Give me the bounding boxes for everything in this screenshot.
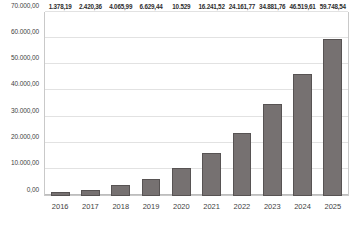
bar-value-label: 16.241,52 bbox=[199, 4, 225, 10]
bar-slot: 46.519,61 bbox=[287, 12, 317, 196]
bar-slot: 16.241,52 bbox=[196, 12, 226, 196]
bar-value-label: 2.420,36 bbox=[79, 4, 102, 10]
bar-value-label: 10.529 bbox=[172, 4, 190, 10]
bar-slot: 34.881,76 bbox=[257, 12, 287, 196]
bar[interactable]: 24.161,77 bbox=[233, 133, 252, 197]
bar[interactable]: 10.529 bbox=[172, 168, 191, 196]
bar[interactable]: 34.881,76 bbox=[263, 104, 282, 196]
bar-value-label: 6.629,44 bbox=[140, 4, 163, 10]
bar-value-label: 4.065,99 bbox=[109, 4, 132, 10]
y-axis-tick-label: 60.000,00 bbox=[11, 29, 39, 36]
bar[interactable]: 6.629,44 bbox=[142, 179, 161, 196]
bar-slot: 4.065,99 bbox=[106, 12, 136, 196]
bar[interactable]: 2.420,36 bbox=[81, 190, 100, 196]
bar-value-label: 24.161,77 bbox=[229, 4, 255, 10]
bar-slot: 24.161,77 bbox=[227, 12, 257, 196]
y-axis: 0,0010.000,0020.000,0030.000,0040.000,00… bbox=[0, 12, 42, 196]
x-axis-tick-label: 2021 bbox=[196, 200, 226, 214]
x-axis: 2016201720182019202020212022202320242025 bbox=[45, 200, 348, 214]
x-axis-tick-label: 2025 bbox=[318, 200, 348, 214]
x-axis-tick-label: 2023 bbox=[257, 200, 287, 214]
y-axis-tick-label: 10.000,00 bbox=[11, 160, 39, 167]
y-axis-tick-label: 0,00 bbox=[27, 186, 39, 193]
bar-value-label: 46.519,61 bbox=[289, 4, 315, 10]
bar-value-label: 1.378,19 bbox=[49, 4, 72, 10]
bar-slot: 10.529 bbox=[166, 12, 196, 196]
bar-chart: 0,0010.000,0020.000,0030.000,0040.000,00… bbox=[0, 0, 355, 226]
bar-value-label: 34.881,76 bbox=[259, 4, 285, 10]
bars-layer: 1.378,192.420,364.065,996.629,4410.52916… bbox=[45, 12, 348, 196]
bar-slot: 1.378,19 bbox=[45, 12, 75, 196]
bar[interactable]: 46.519,61 bbox=[293, 74, 312, 196]
y-axis-tick-label: 20.000,00 bbox=[11, 134, 39, 141]
x-axis-tick-label: 2020 bbox=[166, 200, 196, 214]
x-axis-tick-label: 2022 bbox=[227, 200, 257, 214]
bar[interactable]: 1.378,19 bbox=[51, 192, 70, 196]
x-axis-tick-label: 2018 bbox=[106, 200, 136, 214]
y-axis-tick-label: 40.000,00 bbox=[11, 81, 39, 88]
x-axis-tick-label: 2016 bbox=[45, 200, 75, 214]
bar-slot: 6.629,44 bbox=[136, 12, 166, 196]
bar[interactable]: 4.065,99 bbox=[111, 185, 130, 196]
bar-slot: 59.748,54 bbox=[318, 12, 348, 196]
x-axis-tick-label: 2024 bbox=[287, 200, 317, 214]
x-axis-tick-label: 2017 bbox=[75, 200, 105, 214]
bar[interactable]: 59.748,54 bbox=[323, 39, 342, 196]
bar[interactable]: 16.241,52 bbox=[202, 153, 221, 196]
y-axis-tick-label: 30.000,00 bbox=[11, 107, 39, 114]
bar-value-label: 59.748,54 bbox=[320, 4, 346, 10]
y-axis-tick-label: 50.000,00 bbox=[11, 55, 39, 62]
y-axis-tick-label: 70.000,00 bbox=[11, 2, 39, 9]
x-axis-tick-label: 2019 bbox=[136, 200, 166, 214]
bar-slot: 2.420,36 bbox=[75, 12, 105, 196]
